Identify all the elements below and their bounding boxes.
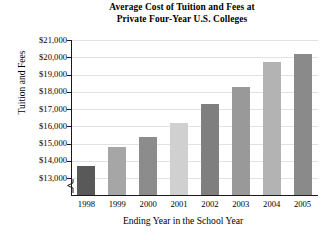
bar-2002 (201, 104, 219, 195)
x-axis-title: Ending Year in the School Year (58, 215, 308, 226)
y-axis-tick (67, 161, 71, 162)
gridline (72, 126, 318, 127)
bar-chart: Average Cost of Tuition and Fees at Priv… (0, 0, 326, 240)
x-axis-line (71, 195, 318, 196)
bar-2003 (232, 87, 250, 195)
y-axis-tick (67, 75, 71, 76)
bar-2000 (139, 137, 157, 195)
gridline (72, 109, 318, 110)
y-axis-tick (67, 144, 71, 145)
y-axis-tick-label: $17,000 (21, 104, 67, 114)
bar-2005 (294, 54, 312, 195)
y-axis-tick-label: $20,000 (21, 52, 67, 62)
bar-2004 (263, 62, 281, 195)
y-axis-tick-label: $16,000 (21, 121, 67, 131)
y-axis-tick (67, 92, 71, 93)
gridline (72, 40, 318, 41)
y-axis-tick-label: $14,000 (21, 155, 67, 165)
y-axis-tick (67, 178, 71, 179)
y-axis-tick (67, 57, 71, 58)
y-axis-tick (67, 109, 71, 110)
x-axis-tick-label: 2005 (283, 199, 323, 209)
chart-title-line-2: Private Four-Year U.S. Colleges (58, 14, 306, 26)
y-axis-tick-label: $18,000 (21, 86, 67, 96)
y-axis-line (71, 40, 72, 196)
bar-2001 (170, 123, 188, 195)
y-axis-tick-label: $15,000 (21, 138, 67, 148)
chart-title: Average Cost of Tuition and Fees at Priv… (58, 2, 306, 25)
chart-title-line-1: Average Cost of Tuition and Fees at (58, 2, 306, 14)
y-axis-tick (67, 40, 71, 41)
y-axis-tick-label: $13,000 (21, 173, 67, 183)
gridline (72, 57, 318, 58)
bar-1999 (108, 147, 126, 195)
plot-area (71, 40, 318, 196)
gridline (72, 75, 318, 76)
y-axis-tick-label: $19,000 (21, 69, 67, 79)
gridline (72, 92, 318, 93)
y-axis-tick-labels: $21,000$20,000$19,000$18,000$17,000$16,0… (19, 40, 67, 196)
y-axis-tick (67, 126, 71, 127)
gridline (72, 144, 318, 145)
y-axis-tick-label: $21,000 (21, 35, 67, 45)
bar-1998 (77, 166, 95, 195)
